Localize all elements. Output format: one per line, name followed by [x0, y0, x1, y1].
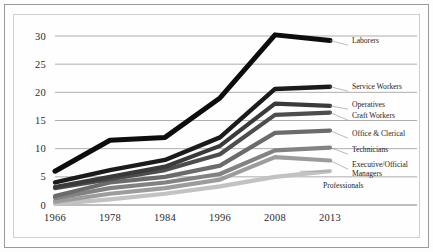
y-axis-tick-label: 10: [35, 143, 46, 154]
x-axis-tick-label: 2013: [319, 212, 341, 223]
x-axis-tick-label: 1978: [99, 212, 121, 223]
plot-area: 051015202530 196619781984199620082013 La…: [0, 0, 433, 252]
series-leader-line: [330, 113, 348, 121]
x-axis-tick-label: 1984: [154, 212, 177, 223]
series-label-executive-official: Executive/Official: [352, 160, 408, 169]
y-axis-tick-label: 5: [40, 171, 46, 182]
series-leader-line: [330, 41, 348, 46]
series-line: [55, 87, 330, 183]
series-label-professionals: Professionals: [323, 181, 364, 190]
series-label-technicians: Technicians: [352, 145, 388, 154]
series-label-service-workers: Service Workers: [352, 82, 402, 91]
series-label-operatives: Operatives: [352, 100, 385, 109]
line-chart-svg: 051015202530 196619781984199620082013 La…: [0, 0, 433, 252]
x-axis-tick-label: 1996: [209, 212, 231, 223]
series-label-laborers: Laborers: [352, 36, 379, 45]
series-leader-line: [330, 106, 348, 109]
series-leader-line: [330, 87, 348, 92]
y-axis-tick-label: 0: [40, 200, 46, 211]
y-axis-tick-label: 25: [35, 59, 46, 70]
series-lines: [55, 35, 330, 204]
series-leader-line: [330, 131, 348, 139]
y-axis-tick-labels: 051015202530: [35, 31, 46, 211]
y-axis-tick-label: 15: [35, 115, 46, 126]
x-axis-tick-labels: 196619781984199620082013: [44, 212, 341, 223]
series-label-managers: Managers: [352, 169, 382, 178]
y-axis-tick-label: 30: [35, 31, 46, 42]
series-label-craft-workers: Craft Workers: [352, 111, 395, 120]
y-axis-tick-label: 20: [35, 87, 46, 98]
chart-container: 051015202530 196619781984199620082013 La…: [0, 0, 433, 252]
x-axis-tick-label: 1966: [44, 212, 66, 223]
series-label-office-clerical: Office & Clerical: [352, 129, 405, 138]
x-axis-tick-label: 2008: [264, 212, 286, 223]
series-labels: LaborersService WorkersOperativesCraft W…: [323, 36, 408, 190]
series-leader-line: [330, 160, 348, 169]
